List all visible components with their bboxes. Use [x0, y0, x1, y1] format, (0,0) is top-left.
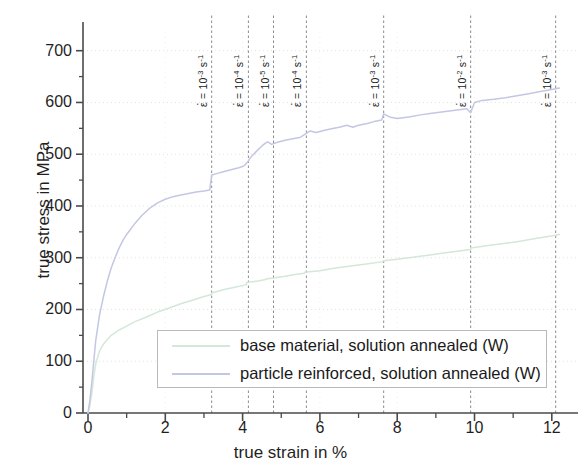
- y-tick-label: 200: [26, 300, 72, 318]
- x-tick-label: 10: [455, 419, 495, 437]
- x-tick-label: 6: [300, 419, 340, 437]
- strain-rate-label-0: ·ε = 10-3 s-1: [197, 55, 209, 107]
- legend-item-particle-reinforced: particle reinforced, solution annealed (…: [158, 359, 546, 388]
- x-tick-label: 8: [377, 419, 417, 437]
- y-tick-label: 400: [26, 197, 72, 215]
- y-tick-label: 500: [26, 145, 72, 163]
- strain-rate-label-4: ·ε = 10-3 s-1: [369, 55, 381, 107]
- legend-label-particle-reinforced: particle reinforced, solution annealed (…: [240, 364, 541, 383]
- legend-swatch-base-material: [172, 345, 230, 347]
- x-tick-label: 12: [532, 419, 572, 437]
- legend-swatch-particle-reinforced: [172, 373, 230, 375]
- y-tick-label: 300: [26, 249, 72, 267]
- y-tick-label: 600: [26, 93, 72, 111]
- x-tick-label: 2: [145, 419, 185, 437]
- x-tick-label: 0: [68, 419, 108, 437]
- y-tick-label: 100: [26, 352, 72, 370]
- legend: base material, solution annealed (W) par…: [157, 330, 547, 388]
- stress-strain-chart: true stress in MPa true strain in % 0100…: [0, 0, 581, 471]
- strain-rate-label-3: ·ε = 10-4 s-1: [291, 55, 303, 107]
- x-tick-label: 4: [223, 419, 263, 437]
- legend-item-base-material: base material, solution annealed (W): [158, 331, 546, 360]
- strain-rate-label-2: ·ε = 10-5 s-1: [259, 55, 271, 107]
- legend-label-base-material: base material, solution annealed (W): [240, 336, 509, 355]
- strain-rate-label-6: ·ε = 10-3 s-1: [541, 55, 553, 107]
- y-tick-label: 700: [26, 42, 72, 60]
- strain-rate-label-5: ·ε = 10-2 s-1: [456, 55, 468, 107]
- strain-rate-label-1: ·ε = 10-4 s-1: [233, 55, 245, 107]
- y-tick-label: 0: [26, 404, 72, 422]
